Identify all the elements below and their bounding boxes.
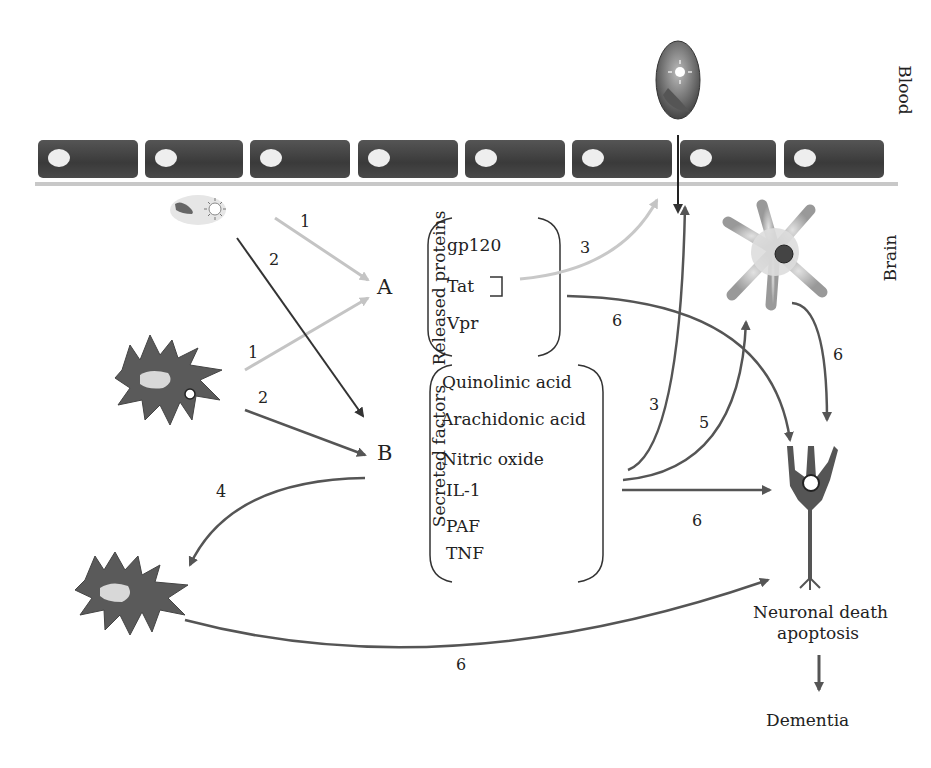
arrow-label-5: 5: [699, 415, 709, 431]
blood-label: Blood: [895, 65, 915, 114]
arrow-label-6: 6: [456, 657, 466, 673]
virus-particle-icon: [170, 195, 226, 225]
dementia-label: Dementia: [766, 712, 849, 729]
protein-vpr: Vpr: [447, 315, 478, 332]
protein-gp120: gp120: [447, 237, 501, 254]
factor-quinolinic-acid: Quinolinic acid: [442, 374, 572, 391]
arrow-label-4: 4: [216, 484, 226, 500]
factor-arachidonic-acid: Arachidonic acid: [441, 411, 586, 428]
arrow-label-3: 3: [580, 240, 590, 256]
factor-il1: IL-1: [446, 482, 481, 499]
brain-label: Brain: [880, 234, 900, 281]
arrow-label-6: 6: [612, 313, 622, 329]
infected-microglia-icon: [115, 335, 222, 425]
bracket-right-A: [538, 218, 560, 356]
arrow-label-6: 6: [833, 347, 843, 363]
arrow-label-6: 6: [692, 513, 702, 529]
group-A-letter: A: [377, 277, 392, 298]
factor-nitric-oxide: Nitric oxide: [442, 451, 544, 468]
astrocyte-icon: [728, 205, 822, 305]
neuron-icon: [787, 446, 838, 590]
arrow-label-3: 3: [649, 397, 659, 413]
arrow-label-2: 2: [258, 390, 268, 406]
apoptosis-label: apoptosis: [777, 625, 859, 642]
activated-microglia-icon: [75, 552, 188, 635]
arrow-label-1: 1: [300, 214, 310, 230]
bracket-right-B: [578, 365, 603, 582]
arrow-label-2: 2: [269, 252, 279, 268]
group-B-letter: B: [377, 443, 392, 464]
neuronal-death-label: Neuronal death: [753, 604, 888, 621]
arrow-label-1: 1: [248, 345, 258, 361]
tat-bracket: [490, 277, 502, 296]
protein-tat: Tat: [447, 278, 474, 295]
factor-tnf: TNF: [446, 545, 484, 562]
infected-monocyte-icon: [656, 41, 700, 119]
factor-paf: PAF: [446, 518, 480, 535]
